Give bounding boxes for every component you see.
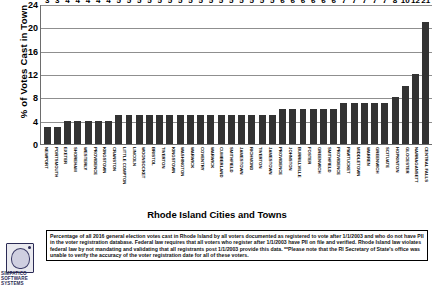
bar-slot: 3 xyxy=(52,5,62,144)
bar-slot: 4 xyxy=(83,5,93,144)
bar-value-label: 7 xyxy=(342,0,346,5)
y-tick-label: 16 xyxy=(16,47,38,57)
bar-value-label: 6 xyxy=(321,0,325,5)
bar-slot: 5 xyxy=(185,5,195,144)
bar xyxy=(320,109,327,144)
x-label-slot: WARREN xyxy=(363,147,373,209)
x-label-slot: LINCOLN xyxy=(129,147,139,209)
y-tick-label: 4 xyxy=(16,117,38,127)
bar-value-label: 6 xyxy=(280,0,284,5)
bar-slot: 4 xyxy=(93,5,103,144)
x-label-slot: COVENTRY xyxy=(197,147,207,209)
x-label-slot: WARWICK xyxy=(187,147,197,209)
x-label-slot: PORTSMOUTH xyxy=(51,147,61,209)
bar xyxy=(74,121,81,144)
bar-slot: 12 xyxy=(410,5,420,144)
bar-series: 3344444555555555555555566666677777810122… xyxy=(41,5,432,144)
x-tick-label: CUMBERLAND xyxy=(219,147,223,178)
bar xyxy=(279,109,286,144)
x-label-slot: PAWTUCKET xyxy=(343,147,353,209)
x-tick-label: WARREN xyxy=(365,147,369,166)
bar-slot: 6 xyxy=(277,5,287,144)
bar-value-label: 4 xyxy=(96,0,100,5)
bar-value-label: 6 xyxy=(301,0,305,5)
x-label-slot: WESTERLY xyxy=(80,147,90,209)
x-tick-label: BURRILLVILLE xyxy=(297,147,301,178)
x-label-slot: HOPKINTON xyxy=(392,147,402,209)
bar xyxy=(238,115,245,144)
bar-slot: 7 xyxy=(370,5,380,144)
bar-value-label: 12 xyxy=(411,0,420,5)
bar-slot: 4 xyxy=(62,5,72,144)
bar xyxy=(422,22,429,145)
x-label-slot: NEWPORT xyxy=(41,147,51,209)
y-tick-label: 20 xyxy=(16,23,38,33)
bar-slot: 5 xyxy=(236,5,246,144)
x-tick-label: WARWICK xyxy=(190,147,194,168)
x-axis-tick-labels: NEWPORTPORTSMOUTHEXETERSHOREHAMWESTERLYP… xyxy=(40,147,432,209)
bar-value-label: 5 xyxy=(157,0,161,5)
x-label-slot: KINGSTOWN xyxy=(100,147,110,209)
bar-value-label: 7 xyxy=(362,0,366,5)
x-tick-label: PROVIDENCE xyxy=(278,147,282,175)
x-tick-label: SHOREHAM xyxy=(73,147,77,172)
bar xyxy=(136,115,143,144)
bar xyxy=(381,103,388,144)
bar-value-label: 5 xyxy=(127,0,131,5)
x-label-slot: JAMESTOWN xyxy=(265,147,275,209)
x-tick-label: JAMESTOWN xyxy=(268,147,272,175)
bar xyxy=(289,109,296,144)
x-label-slot: EXETER xyxy=(61,147,71,209)
x-label-slot: SCITUATE xyxy=(382,147,392,209)
bar-value-label: 3 xyxy=(45,0,49,5)
bar xyxy=(351,103,358,144)
bar xyxy=(402,86,409,144)
x-tick-label: KINGSTOWN xyxy=(102,147,106,173)
bar-value-label: 5 xyxy=(219,0,223,5)
x-label-slot: MIDDLETOWN xyxy=(353,147,363,209)
bar-slot: 5 xyxy=(114,5,124,144)
x-tick-label: PROVIDENCE xyxy=(92,147,96,175)
x-tick-label: JAMESTOWN xyxy=(239,147,243,175)
bar xyxy=(85,121,92,144)
bar xyxy=(300,109,307,144)
bar-value-label: 10 xyxy=(401,0,410,5)
bar-value-label: 5 xyxy=(229,0,233,5)
bar-value-label: 5 xyxy=(178,0,182,5)
x-tick-label: SMITHFIELD xyxy=(229,147,233,173)
x-tick-label: FOSTER xyxy=(307,147,311,164)
x-label-slot: CENTRAL FALLS xyxy=(421,147,431,209)
x-tick-label: GLOCESTER xyxy=(404,147,408,174)
x-tick-label: COVENTRY xyxy=(200,147,204,171)
x-tick-label: TIVERTON xyxy=(258,147,262,169)
x-tick-label: EXETER xyxy=(63,147,67,164)
x-label-slot: JAMESTOWN xyxy=(236,147,246,209)
x-label-slot: PROVIDENCE xyxy=(275,147,285,209)
bar-value-label: 5 xyxy=(168,0,172,5)
bar xyxy=(218,115,225,144)
bar-value-label: 6 xyxy=(291,0,295,5)
x-label-slot: SHOREHAM xyxy=(70,147,80,209)
x-tick-label: CRANSTON xyxy=(112,147,116,171)
bar-slot: 5 xyxy=(124,5,134,144)
x-label-slot: GREENWICH xyxy=(314,147,324,209)
bar-value-label: 5 xyxy=(270,0,274,5)
bar xyxy=(228,115,235,144)
bar-value-label: 4 xyxy=(86,0,90,5)
bar xyxy=(310,109,317,144)
bar-value-label: 4 xyxy=(106,0,110,5)
plot-area: 3344444555555555555555566666677777810122… xyxy=(40,5,432,145)
x-tick-label: SCITUATE xyxy=(385,147,389,168)
x-label-slot: CUMBERLAND xyxy=(217,147,227,209)
bar xyxy=(156,115,163,144)
bar xyxy=(340,103,347,144)
bar-slot: 5 xyxy=(175,5,185,144)
bar-value-label: 5 xyxy=(209,0,213,5)
x-tick-label: HOPKINTON xyxy=(395,147,399,173)
bar-slot: 7 xyxy=(339,5,349,144)
x-label-slot: WASHINGTON xyxy=(178,147,188,209)
bar-slot: 10 xyxy=(400,5,410,144)
bar xyxy=(269,115,276,144)
bar xyxy=(54,127,61,145)
bar-slot: 21 xyxy=(421,5,431,144)
